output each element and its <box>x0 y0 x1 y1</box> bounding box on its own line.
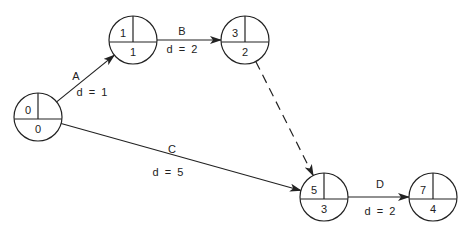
activity-arrow <box>61 123 301 190</box>
activity-label: B <box>178 25 185 37</box>
node-number: 7 <box>420 184 426 196</box>
node-3: 32 <box>221 16 269 64</box>
node-earliest-time: 3 <box>321 203 327 215</box>
nodes: 0011325374 <box>14 16 457 221</box>
node-1: 11 <box>109 16 157 64</box>
node-7: 74 <box>409 173 457 221</box>
node-earliest-time: 2 <box>242 46 248 58</box>
activity-label: C <box>168 143 176 155</box>
node-earliest-time: 4 <box>430 203 436 215</box>
duration-label: d = 1 <box>77 86 108 98</box>
node-number: 5 <box>311 184 317 196</box>
edge-5-7: Dd = 2 <box>348 178 409 217</box>
node-5: 53 <box>300 173 348 221</box>
node-earliest-time: 1 <box>130 46 136 58</box>
activity-label: A <box>72 70 80 82</box>
dummy-activity-arrow <box>256 61 313 175</box>
duration-label: d = 2 <box>365 205 396 217</box>
node-number: 1 <box>120 27 126 39</box>
network-diagram: Ad = 1Bd = 2Cd = 5Dd = 2 0011325374 <box>0 0 471 231</box>
node-number: 0 <box>25 104 31 116</box>
edge-0-1: Ad = 1 <box>57 55 115 102</box>
node-number: 3 <box>232 27 238 39</box>
node-0: 00 <box>14 93 62 141</box>
activity-label: D <box>376 178 384 190</box>
node-earliest-time: 0 <box>35 123 41 135</box>
edge-0-5: Cd = 5 <box>61 123 301 190</box>
duration-label: d = 5 <box>153 166 184 178</box>
edge-3-5 <box>256 61 313 175</box>
edge-1-3: Bd = 2 <box>157 25 221 55</box>
duration-label: d = 2 <box>167 43 198 55</box>
